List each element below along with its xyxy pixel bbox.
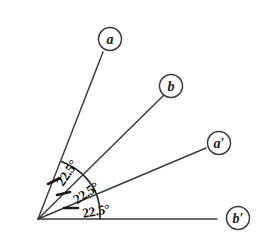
label-badge-b-prime: b′ — [227, 207, 250, 230]
label-badge-b: b — [160, 75, 183, 98]
geometry-figure: 22.5° 22.5° 22.5° a b a′ b′ — [0, 0, 272, 237]
label-text-b-prime: b′ — [233, 211, 244, 226]
ray-b — [38, 95, 164, 219]
angle-diagram-canvas: 22.5° 22.5° 22.5° a b a′ b′ — [0, 0, 272, 237]
tick-mark-2 — [57, 192, 70, 195]
label-badge-a: a — [99, 28, 122, 51]
label-text-b: b — [168, 79, 175, 94]
label-badge-a-prime: a′ — [208, 132, 231, 155]
angle-label-a-b: 22.5° — [53, 157, 81, 188]
label-text-a: a — [107, 32, 114, 47]
label-text-a-prime: a′ — [214, 136, 225, 151]
angle-label-a-prime-b-prime: 22.5° — [81, 201, 111, 221]
